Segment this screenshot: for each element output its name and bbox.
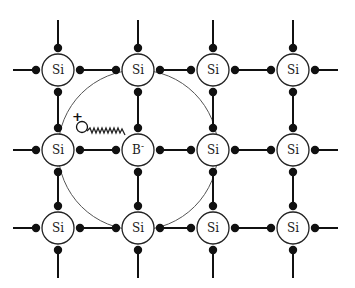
electron-dot — [33, 147, 39, 153]
electron-dot — [210, 203, 216, 209]
electron-dot — [232, 67, 238, 73]
hole-plus-label: + — [72, 109, 83, 124]
electron-dot — [33, 225, 39, 231]
electron-dot — [188, 147, 194, 153]
electron-dot — [135, 45, 141, 51]
electron-dot — [268, 67, 274, 73]
electron-dot — [113, 67, 119, 73]
spring-icon — [87, 128, 125, 135]
electron-dot — [268, 225, 274, 231]
electron-dot — [312, 147, 318, 153]
hole-group: + — [72, 109, 125, 135]
electron-dot — [232, 225, 238, 231]
electron-dot — [210, 125, 216, 131]
atom-label: Si — [52, 63, 64, 77]
electron-dot — [157, 225, 163, 231]
atom-label: Si — [287, 221, 299, 235]
electron-dot — [290, 247, 296, 253]
silicon-atom: Si — [42, 134, 74, 166]
electron-dot — [135, 125, 141, 131]
electron-dot — [135, 247, 141, 253]
electron-dot — [77, 225, 83, 231]
electron-dot — [55, 125, 61, 131]
electron-dot — [77, 67, 83, 73]
silicon-atom: Si — [277, 134, 309, 166]
electron-dot — [290, 45, 296, 51]
silicon-atom: Si — [197, 212, 229, 244]
silicon-atom: Si — [277, 212, 309, 244]
atom-label: Si — [132, 221, 144, 235]
electron-dot — [157, 147, 163, 153]
atom-label: Si — [52, 143, 64, 157]
electron-dot — [290, 203, 296, 209]
atom-label: Si — [207, 221, 219, 235]
electron-dot — [135, 169, 141, 175]
electron-dot — [312, 225, 318, 231]
electron-dot — [135, 89, 141, 95]
electron-dot — [135, 203, 141, 209]
atom-label: Si — [207, 63, 219, 77]
electron-dot — [157, 67, 163, 73]
electron-dot — [210, 89, 216, 95]
silicon-atom: Si — [42, 54, 74, 86]
electron-dot — [113, 147, 119, 153]
electron-dot — [232, 147, 238, 153]
electron-dot — [55, 45, 61, 51]
electron-dot — [268, 147, 274, 153]
electron-dot — [290, 169, 296, 175]
electron-dot — [312, 67, 318, 73]
atom-label: Si — [287, 63, 299, 77]
atom-label: Si — [207, 143, 219, 157]
electron-dot — [210, 45, 216, 51]
electron-dot — [188, 67, 194, 73]
electron-dot — [55, 169, 61, 175]
silicon-atom: Si — [277, 54, 309, 86]
electron-dot — [290, 125, 296, 131]
silicon-atom: Si — [197, 54, 229, 86]
electron-dot — [55, 247, 61, 253]
silicon-atom: Si — [197, 134, 229, 166]
atom-label: Si — [52, 221, 64, 235]
electron-dot — [77, 147, 83, 153]
electron-dot — [210, 169, 216, 175]
atom-label: Si — [132, 63, 144, 77]
boron-atom: B- — [122, 134, 154, 166]
silicon-atom: Si — [122, 54, 154, 86]
silicon-atom: Si — [122, 212, 154, 244]
electron-dot — [290, 89, 296, 95]
electron-dot — [33, 67, 39, 73]
electron-dot — [188, 225, 194, 231]
electron-dot — [113, 225, 119, 231]
atom-label: Si — [287, 143, 299, 157]
electron-dot — [55, 89, 61, 95]
lattice-diagram: SiSiSiSiSiB-SiSiSiSiSiSi + — [0, 0, 355, 288]
electron-dot — [55, 203, 61, 209]
silicon-atom: Si — [42, 212, 74, 244]
electron-dot — [210, 247, 216, 253]
